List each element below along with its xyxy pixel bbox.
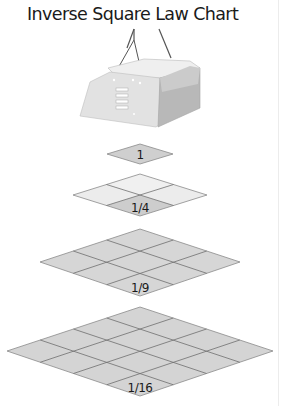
- inverse-square-diagram: 1 1/4 1/9 1/16: [0, 0, 281, 406]
- level-16-diamond: 1/16: [7, 307, 273, 396]
- lamp-icon: [80, 29, 200, 127]
- level-label-1: 1: [136, 148, 143, 162]
- level-label-9: 1/9: [131, 281, 149, 295]
- level-9-diamond: 1/9: [40, 229, 240, 296]
- level-4-diamond: 1/4: [73, 174, 207, 216]
- level-label-16: 1/16: [128, 381, 153, 395]
- level-label-4: 1/4: [131, 201, 149, 215]
- level-1-diamond: 1: [107, 144, 173, 164]
